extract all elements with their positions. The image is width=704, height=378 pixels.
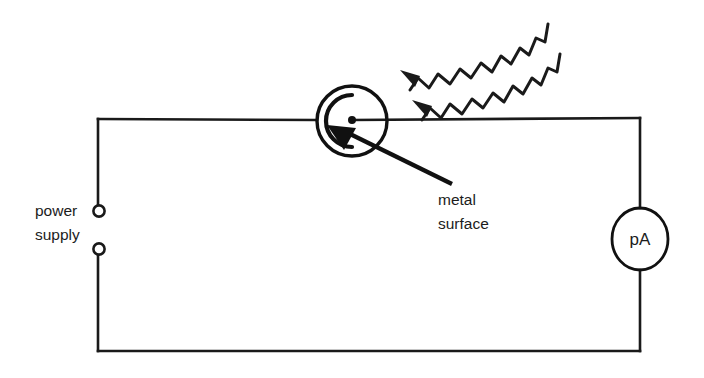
metal-surface-label: metal surface [438, 191, 489, 232]
metal-surface-label-line1: metal [438, 191, 476, 208]
power-supply-terminals [93, 205, 104, 254]
power-supply-label-line2: supply [35, 226, 80, 243]
circuit-diagram-canvas: power supply metal [0, 0, 704, 378]
metal-surface-label-line2: surface [438, 215, 489, 232]
wire-top-left [98, 119, 317, 120]
picoammeter-label: pA [630, 230, 651, 249]
incident-ray-upper [410, 24, 548, 90]
metal-surface-pointer-line [348, 133, 452, 184]
photoelectric-circuit-figure: power supply metal [0, 0, 704, 378]
incident-ray-lower [422, 54, 560, 120]
power-supply-terminal-bottom [93, 243, 104, 254]
incident-ray-upper-arrowhead [400, 70, 420, 87]
wire-top-right [352, 118, 640, 120]
incident-ray-lower-arrowhead [412, 100, 432, 117]
power-supply-label: power supply [35, 202, 80, 243]
power-supply-label-line1: power [35, 202, 77, 219]
incident-light-rays [400, 24, 560, 120]
picoammeter-symbol: pA [612, 208, 668, 270]
power-supply-terminal-top [93, 205, 104, 216]
phototube-anode-dot [348, 116, 356, 124]
